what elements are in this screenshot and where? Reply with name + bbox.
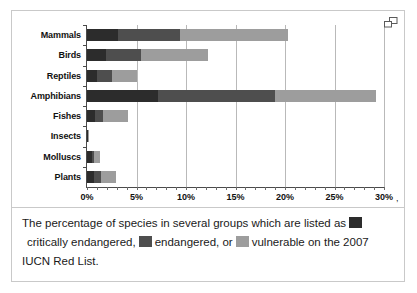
legend-swatch-critically-endangered xyxy=(349,217,362,228)
bar-segment-critically-endangered xyxy=(87,29,118,41)
y-axis-tick xyxy=(83,25,87,26)
caption-line-3: IUCN Red List. xyxy=(22,252,394,271)
bar-stack-birds[interactable] xyxy=(87,49,208,61)
legend-swatch-endangered xyxy=(139,236,152,247)
category-label-birds: Birds xyxy=(58,50,81,60)
x-tick-label-15: 15% xyxy=(226,192,244,202)
category-label-insects: Insects xyxy=(51,131,81,141)
bar-segment-vulnerable xyxy=(103,110,128,122)
x-tick-minor xyxy=(315,187,316,190)
x-tick-minor xyxy=(216,187,217,190)
x-tick-minor xyxy=(146,187,147,190)
x-tick-minor xyxy=(374,187,375,190)
x-tick-minor xyxy=(176,187,177,190)
gridline-30 xyxy=(384,25,385,187)
x-tick-minor xyxy=(107,187,108,190)
x-tick-minor xyxy=(137,187,138,190)
bar-segment-vulnerable xyxy=(101,171,116,183)
bar-segment-critically-endangered xyxy=(87,110,95,122)
bar-segment-vulnerable xyxy=(180,29,288,41)
figure-caption: The percentage of species in several gro… xyxy=(12,208,404,281)
legend-swatch-vulnerable xyxy=(236,236,249,247)
bar-segment-endangered xyxy=(106,49,142,61)
bar-segment-vulnerable xyxy=(112,70,138,82)
caption-text-3: endangered, or xyxy=(155,236,233,248)
bar-stack-plants[interactable] xyxy=(87,171,116,183)
x-tick-minor xyxy=(384,187,385,190)
x-tick-minor xyxy=(226,187,227,190)
bar-stack-fishes[interactable] xyxy=(87,110,128,122)
x-tick-minor xyxy=(364,187,365,190)
bar-row: Fishes xyxy=(87,106,384,126)
bar-segment-vulnerable xyxy=(275,90,376,102)
caption-text-1: The percentage of species in several gro… xyxy=(22,217,346,229)
x-tick-minor xyxy=(87,187,88,190)
bar-row: Reptiles xyxy=(87,66,384,86)
y-axis-tick xyxy=(83,106,87,107)
x-tick-minor xyxy=(354,187,355,190)
x-tick-label-30: 30% xyxy=(375,192,393,202)
bar-stack-reptiles[interactable] xyxy=(87,70,137,82)
bar-row: Molluscs xyxy=(87,147,384,167)
caption-line-2: critically endangered,endangered, orvuln… xyxy=(22,233,394,252)
bar-segment-endangered xyxy=(118,29,180,41)
caption-text-4: vulnerable on the 2007 xyxy=(252,236,369,248)
x-axis-tail-label: , xyxy=(396,193,399,203)
x-tick-label-0: 0% xyxy=(80,192,93,202)
x-tick-minor xyxy=(275,187,276,190)
x-tick-minor xyxy=(117,187,118,190)
category-label-mammals: Mammals xyxy=(41,30,81,40)
bar-segment-critically-endangered xyxy=(87,70,97,82)
chart-area: MammalsBirdsReptilesAmphibiansFishesInse… xyxy=(12,11,404,207)
bar-stack-amphibians[interactable] xyxy=(87,90,376,102)
x-tick-label-20: 20% xyxy=(276,192,294,202)
x-tick-minor xyxy=(245,187,246,190)
bar-segment-endangered xyxy=(94,171,101,183)
copy-windows-icon[interactable] xyxy=(384,17,398,30)
category-label-reptiles: Reptiles xyxy=(47,71,81,81)
category-label-fishes: Fishes xyxy=(53,111,81,121)
plot-area: MammalsBirdsReptilesAmphibiansFishesInse… xyxy=(87,25,384,187)
bar-stack-molluscs[interactable] xyxy=(87,151,100,163)
category-label-amphibians: Amphibians xyxy=(30,91,81,101)
bar-row: Plants xyxy=(87,167,384,187)
y-axis-tick xyxy=(83,126,87,127)
bar-segment-critically-endangered xyxy=(87,49,106,61)
x-tick-minor xyxy=(127,187,128,190)
bar-row: Birds xyxy=(87,45,384,65)
bar-segment-endangered xyxy=(97,70,112,82)
x-tick-minor xyxy=(344,187,345,190)
x-tick-minor xyxy=(325,187,326,190)
x-tick-minor xyxy=(285,187,286,190)
bar-segment-vulnerable xyxy=(94,151,100,163)
y-axis-tick xyxy=(83,45,87,46)
caption-text-2: critically endangered, xyxy=(27,236,136,248)
y-axis-tick xyxy=(83,86,87,87)
bar-segment-vulnerable xyxy=(88,130,89,142)
x-tick-minor xyxy=(186,187,187,190)
category-label-molluscs: Molluscs xyxy=(43,152,81,162)
x-axis-ticks: 0%5%10%15%20%25%30% xyxy=(87,187,384,203)
x-tick-label-10: 10% xyxy=(177,192,195,202)
x-tick-minor xyxy=(196,187,197,190)
x-tick-minor xyxy=(166,187,167,190)
bar-row: Mammals xyxy=(87,25,384,45)
bar-rows: MammalsBirdsReptilesAmphibiansFishesInse… xyxy=(87,25,384,187)
category-label-plants: Plants xyxy=(55,172,81,182)
caption-line-1: The percentage of species in several gro… xyxy=(22,214,394,233)
x-tick-minor xyxy=(295,187,296,190)
bar-stack-mammals[interactable] xyxy=(87,29,288,41)
bar-row: Insects xyxy=(87,126,384,146)
bar-stack-insects[interactable] xyxy=(87,130,89,142)
y-axis-tick xyxy=(83,147,87,148)
bar-segment-endangered xyxy=(158,90,275,102)
x-tick-label-5: 5% xyxy=(130,192,143,202)
bar-segment-critically-endangered xyxy=(87,171,94,183)
x-tick-minor xyxy=(156,187,157,190)
x-tick-label-25: 25% xyxy=(325,192,343,202)
x-tick-minor xyxy=(305,187,306,190)
x-tick-minor xyxy=(206,187,207,190)
y-axis-tick xyxy=(83,167,87,168)
x-tick-minor xyxy=(97,187,98,190)
x-tick-minor xyxy=(236,187,237,190)
